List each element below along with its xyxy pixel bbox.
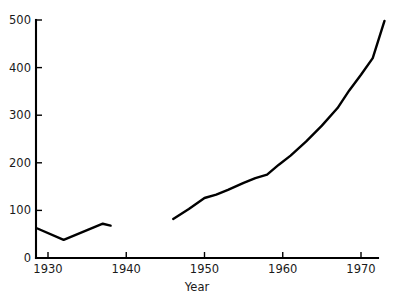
x-tick-label: 1940 [112,262,141,276]
series-line-pre-war [36,224,110,240]
y-tick-label: 400 [9,61,31,75]
x-tick-label: 1960 [268,262,297,276]
chart-figure: 0100200300400500 19301940195019601970 Ye… [0,0,395,303]
y-tick-label: 200 [9,156,31,170]
y-tick-label: 500 [9,13,31,27]
x-axis-tick-labels: 19301940195019601970 [33,262,375,276]
x-tick-label: 1930 [33,262,62,276]
series-line-post-war [173,21,384,219]
y-axis-tick-labels: 0100200300400500 [9,13,31,265]
y-tick-label: 0 [24,251,31,265]
y-tick-label: 300 [9,108,31,122]
data-series-group [36,21,384,240]
x-axis-title: Year [184,280,210,294]
x-tick-label: 1970 [346,262,375,276]
line-chart-plot: 0100200300400500 19301940195019601970 Ye… [0,0,395,303]
y-tick-label: 100 [9,203,31,217]
x-tick-label: 1950 [190,262,219,276]
